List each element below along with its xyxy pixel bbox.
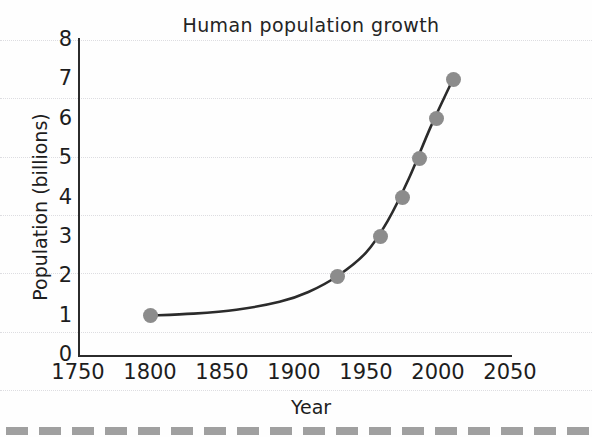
y-axis-tick-label: 6	[16, 108, 72, 129]
dash-segment	[138, 427, 160, 435]
x-axis-tick-label: 2000	[398, 362, 478, 383]
dash-segment	[501, 427, 523, 435]
dash-segment	[72, 427, 94, 435]
data-point	[412, 151, 427, 166]
data-point	[330, 269, 345, 284]
data-point	[143, 308, 158, 323]
dash-segment	[237, 427, 259, 435]
x-axis-tick-labels: 1750180018501900195020002050	[0, 362, 592, 392]
y-axis-tick-label: 3	[16, 226, 72, 247]
x-axis-tick-label: 1950	[326, 362, 406, 383]
y-axis-tick-label: 2	[16, 265, 72, 286]
dash-segment	[171, 427, 193, 435]
chart-page: Human population growth Population (bill…	[0, 0, 592, 437]
dash-segment	[105, 427, 127, 435]
dash-segment	[369, 427, 391, 435]
dash-segment	[303, 427, 325, 435]
y-axis-tick-label: 8	[16, 29, 72, 50]
bottom-dashed-strip	[0, 425, 592, 437]
dash-segment	[6, 427, 28, 435]
dash-segment	[534, 427, 556, 435]
y-axis-tick-label: 7	[16, 68, 72, 89]
x-axis-tick-label: 1850	[182, 362, 262, 383]
data-point	[395, 190, 410, 205]
x-axis-tick-label: 1900	[254, 362, 334, 383]
y-axis-tick-label: 1	[16, 305, 72, 326]
x-axis-line	[78, 355, 512, 357]
dash-segment	[336, 427, 358, 435]
population-curve	[78, 40, 510, 355]
x-axis-tick-label: 1750	[38, 362, 118, 383]
dash-segment	[435, 427, 457, 435]
y-axis-tick-label: 5	[16, 147, 72, 168]
x-axis-title: Year	[0, 396, 592, 418]
x-axis-tick-label: 1800	[110, 362, 190, 383]
dash-segment	[567, 427, 589, 435]
dash-segment	[468, 427, 490, 435]
dash-segment	[204, 427, 226, 435]
x-axis-tick-label: 2050	[470, 362, 550, 383]
chart-title: Human population growth	[0, 14, 592, 36]
y-axis-tick-label: 4	[16, 187, 72, 208]
dash-segment	[39, 427, 61, 435]
dash-segment	[402, 427, 424, 435]
plot-area	[78, 40, 510, 355]
dash-segment	[270, 427, 292, 435]
